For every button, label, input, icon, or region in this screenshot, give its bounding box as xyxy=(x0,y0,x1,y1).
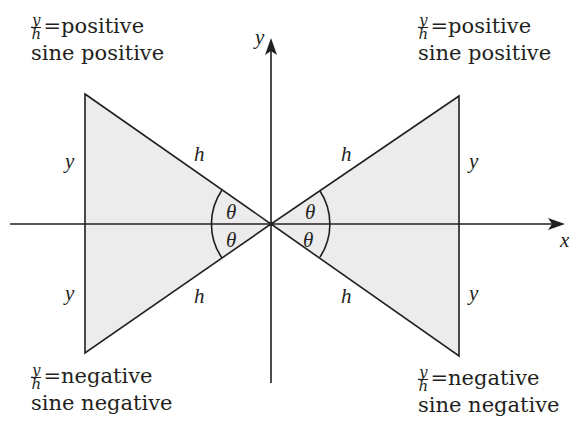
quadrant-label-upper-right: y h =positive sine positive xyxy=(418,14,551,65)
fraction-denominator: h xyxy=(31,378,41,391)
fraction-denominator: h xyxy=(31,28,41,41)
ratio-sign-value: negative xyxy=(448,366,539,390)
ratio-fraction: y h xyxy=(418,366,428,393)
hypotenuse-label-upper-right: h xyxy=(341,143,352,166)
fraction-denominator: h xyxy=(418,28,428,41)
sine-sign-text: sine negative xyxy=(418,393,559,417)
x-axis-label: x xyxy=(560,229,569,252)
fraction-denominator: h xyxy=(418,380,428,393)
equals-sign: = xyxy=(43,14,61,38)
opposite-label-upper-right: y xyxy=(469,150,478,173)
right-triangle xyxy=(271,96,459,356)
quadrant-label-lower-left: y h =negative sine negative xyxy=(31,364,172,415)
sine-sign-text: sine positive xyxy=(418,41,551,65)
ratio-sign-value: positive xyxy=(448,14,531,38)
ratio-sign-value: positive xyxy=(61,14,144,38)
angle-label-upper-right: θ xyxy=(305,201,315,224)
equals-sign: = xyxy=(43,364,61,388)
equals-sign: = xyxy=(430,366,448,390)
hypotenuse-label-lower-left: h xyxy=(194,285,205,308)
origin-point xyxy=(269,222,273,226)
ratio-fraction: y h xyxy=(31,14,41,41)
angle-label-lower-right: θ xyxy=(303,229,313,252)
quadrant-label-upper-left: y h =positive sine positive xyxy=(31,14,164,65)
opposite-label-lower-right: y xyxy=(469,282,478,305)
opposite-label-upper-left: y xyxy=(65,150,74,173)
equals-sign: = xyxy=(430,14,448,38)
ratio-fraction: y h xyxy=(31,364,41,391)
angle-label-upper-left: θ xyxy=(226,201,236,224)
y-axis-label: y xyxy=(255,26,264,49)
opposite-label-lower-left: y xyxy=(65,282,74,305)
ratio-sign-value: negative xyxy=(61,364,152,388)
angle-label-lower-left: θ xyxy=(226,229,236,252)
sine-sign-text: sine negative xyxy=(31,391,172,415)
hypotenuse-label-lower-right: h xyxy=(341,285,352,308)
quadrant-label-lower-right: y h =negative sine negative xyxy=(418,366,559,417)
ratio-fraction: y h xyxy=(418,14,428,41)
sine-sign-text: sine positive xyxy=(31,41,164,65)
hypotenuse-label-upper-left: h xyxy=(194,143,205,166)
